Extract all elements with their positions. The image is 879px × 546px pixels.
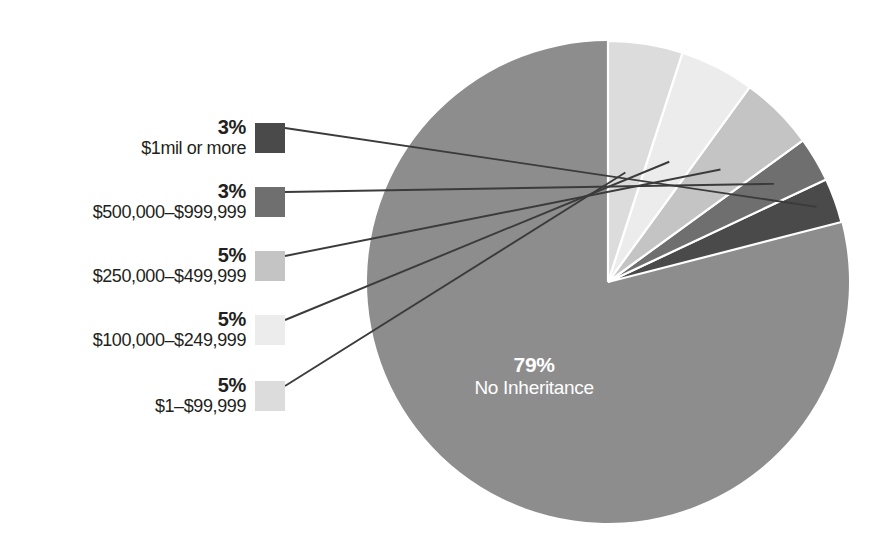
slice-label-no-inheritance: 79% No Inheritance <box>444 353 624 398</box>
legend-item-percent: 3% <box>93 181 246 203</box>
slice-label-name: No Inheritance <box>444 377 624 398</box>
legend-item[interactable]: 3%$1mil or more <box>0 117 285 158</box>
slice-label-percent: 79% <box>444 353 624 377</box>
legend-item-text: 5%$100,000–$249,999 <box>93 309 255 350</box>
legend-item-percent: 5% <box>93 245 246 267</box>
pie-slices <box>367 41 849 523</box>
legend-item-percent: 3% <box>141 117 246 139</box>
legend-item-percent: 5% <box>155 375 246 397</box>
legend-color-swatch <box>255 187 285 217</box>
legend-item-label: $250,000–$499,999 <box>93 267 246 286</box>
legend-item-label: $100,000–$249,999 <box>93 331 246 350</box>
legend-item-text: 5%$1–$99,999 <box>155 375 255 416</box>
legend-item-text: 3%$500,000–$999,999 <box>93 181 255 222</box>
legend-item-text: 5%$250,000–$499,999 <box>93 245 255 286</box>
chart-canvas: 3%$1mil or more3%$500,000–$999,9995%$250… <box>0 0 879 546</box>
legend-item-percent: 5% <box>93 309 246 331</box>
legend-item[interactable]: 5%$100,000–$249,999 <box>0 309 285 350</box>
legend-color-swatch <box>255 123 285 153</box>
legend-item-text: 3%$1mil or more <box>141 117 255 158</box>
legend-item-label: $1–$99,999 <box>155 397 246 416</box>
legend-color-swatch <box>255 315 285 345</box>
legend-item-label: $1mil or more <box>141 139 246 158</box>
legend-item[interactable]: 3%$500,000–$999,999 <box>0 181 285 222</box>
legend-item-label: $500,000–$999,999 <box>93 203 246 222</box>
legend-item[interactable]: 5%$1–$99,999 <box>0 375 285 416</box>
legend-color-swatch <box>255 381 285 411</box>
legend-color-swatch <box>255 251 285 281</box>
legend-item[interactable]: 5%$250,000–$499,999 <box>0 245 285 286</box>
